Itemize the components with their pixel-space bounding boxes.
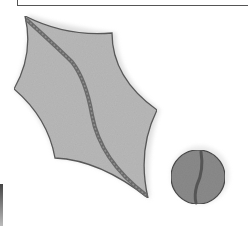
- leaf-body: [14, 16, 157, 198]
- berry: [171, 146, 229, 204]
- berry-body: [171, 150, 225, 204]
- holly-leaf: [14, 15, 160, 199]
- illustration-canvas: [0, 0, 248, 226]
